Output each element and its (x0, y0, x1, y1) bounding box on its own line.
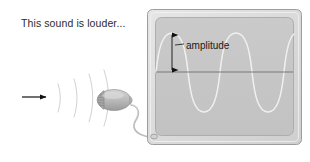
oscilloscope-screen (156, 18, 294, 136)
cable-input-jack (151, 134, 158, 139)
microphone (97, 90, 153, 137)
wavefront-arc-2 (74, 79, 77, 117)
microphone-connector (130, 97, 133, 105)
wavefront-arc-3 (89, 74, 93, 122)
wavefront-arc-1 (58, 84, 60, 112)
amplitude-label: amplitude (186, 40, 229, 51)
sound-propagation-group (22, 70, 109, 126)
oscilloscope (148, 10, 302, 145)
microphone-highlight (102, 92, 124, 99)
figure-canvas: This sound is louder... amplitude (0, 0, 310, 162)
figure-caption: This sound is louder... (21, 17, 125, 29)
